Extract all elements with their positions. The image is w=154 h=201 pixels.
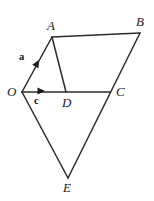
edge-A-B [52,33,140,37]
vector-c-arrowhead [38,87,46,94]
vector-a-arrowhead [32,58,42,68]
vertex-label-a: A [47,19,55,32]
vector-label-c: c [34,96,39,107]
geometry-canvas [0,0,154,201]
vertex-label-b: B [136,15,144,28]
geometry-figure: OABCDEac [0,0,154,201]
vertex-label-e: E [63,181,71,194]
edge-B-E [68,33,140,178]
vertex-label-c: C [116,85,125,98]
vertex-label-o: O [7,85,16,98]
vertex-label-d: D [62,96,71,109]
edge-layer [22,33,140,178]
edge-A-D [52,37,66,92]
vector-arrow-layer [32,58,45,94]
vector-label-a: a [19,52,24,63]
